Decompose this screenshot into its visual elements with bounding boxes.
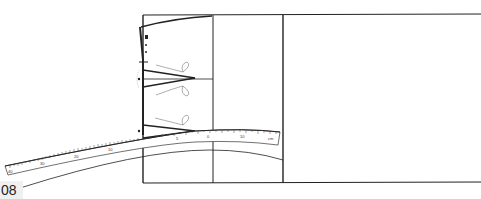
ruler-label-40: 40 [8, 169, 13, 174]
waist-curve [141, 16, 212, 27]
bottom-line [143, 182, 481, 183]
ruler-label-10: 10 [108, 147, 113, 152]
ruler-label-10b: 10 [240, 134, 245, 139]
pattern-frame [143, 14, 481, 183]
ruler-label-cm: cm [268, 136, 274, 141]
top-line [143, 14, 481, 15]
ruler-label-30: 30 [40, 161, 45, 166]
page-number-label: 08 [0, 181, 23, 199]
curved-ruler: 40 30 20 10 5 0 10 cm [5, 130, 283, 188]
dart-upper [137, 62, 213, 96]
ruler-label-20: 20 [74, 154, 79, 159]
pattern-diagram: 40 30 20 10 5 0 10 cm [0, 0, 481, 199]
